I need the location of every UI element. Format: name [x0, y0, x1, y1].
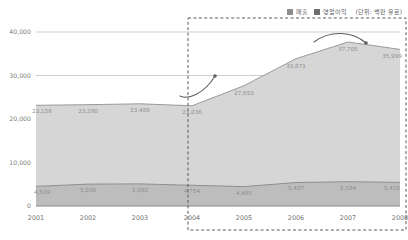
- x-axis-tick-label: 2002: [80, 214, 96, 222]
- y-axis-tick-label: 10,000: [9, 159, 31, 166]
- decline-arrow: [314, 33, 366, 43]
- data-point-label: 23,280: [78, 108, 98, 114]
- data-point-label: 5,082: [132, 187, 148, 193]
- data-point-label: 5,584: [340, 185, 356, 191]
- y-axis-tick-labels: 010,00020,00030,00040,000: [9, 28, 31, 209]
- growth-arrow: [180, 76, 215, 97]
- x-axis-tick-labels: 20012002200320042005200620072008: [28, 214, 408, 222]
- x-axis-tick-label: 2001: [28, 214, 44, 222]
- data-point-label: 5,030: [80, 187, 96, 193]
- data-point-label: 23,036: [182, 109, 202, 115]
- data-point-label: 4,509: [34, 189, 50, 195]
- y-axis-tick-label: 20,000: [9, 115, 31, 122]
- data-point-label: 33,871: [286, 63, 306, 69]
- data-point-label: 4,754: [184, 188, 200, 194]
- chart-container: 매출 영업이익 (단위: 백만 유로) 010,00020,00030,0004…: [0, 0, 408, 240]
- y-axis-tick-label: 0: [27, 202, 31, 209]
- y-axis-tick-label: 40,000: [9, 28, 31, 35]
- x-axis-tick-label: 2007: [340, 214, 356, 222]
- data-point-label: 35,999: [382, 53, 402, 59]
- y-axis-tick-label: 30,000: [9, 72, 31, 79]
- x-axis-tick-label: 2004: [184, 214, 200, 222]
- data-point-label: 27,653: [234, 90, 254, 96]
- x-axis-tick-label: 2006: [288, 214, 304, 222]
- decline-arrow-head: [364, 41, 368, 45]
- data-point-label: 4,465: [236, 190, 252, 196]
- chart-plot: 010,00020,00030,00040,000 23,15823,28023…: [0, 0, 408, 240]
- x-axis-tick-label: 2008: [392, 214, 408, 222]
- data-point-label: 5,416: [384, 185, 400, 191]
- data-point-label: 37,705: [338, 46, 358, 52]
- data-point-label: 5,407: [288, 185, 304, 191]
- growth-arrow-head: [213, 74, 217, 78]
- x-axis-tick-label: 2003: [132, 214, 148, 222]
- x-axis-tick-label: 2005: [236, 214, 252, 222]
- data-point-label: 23,488: [130, 107, 150, 113]
- data-point-label: 23,158: [32, 108, 52, 114]
